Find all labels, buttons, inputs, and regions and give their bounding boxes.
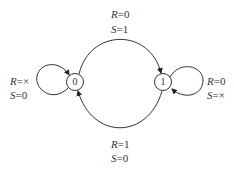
- s-value: =0: [16, 89, 28, 101]
- r-variable: R: [111, 8, 118, 20]
- self-loop-1-arrow: [170, 67, 203, 96]
- state-0-label: 0: [67, 76, 83, 88]
- transition-1-to-0-r-label: R=1: [111, 138, 129, 150]
- self-loop-0-arrow: [37, 65, 69, 95]
- self-loop-0-r-label: R=×: [10, 75, 29, 87]
- s-value: =0: [117, 152, 129, 164]
- r-variable: R: [111, 138, 118, 150]
- transition-1-to-0-s-label: S=0: [111, 152, 128, 164]
- transition-0-to-1-r-label: R=0: [111, 8, 129, 20]
- r-value: =0: [214, 75, 226, 87]
- self-loop-1-r-label: R=0: [207, 75, 225, 87]
- transition-0-to-1-s-label: S=1: [111, 23, 128, 35]
- state-diagram: 0 1 R=0 S=1 R=1 S=0 R=× S=0 R=0 S=×: [0, 0, 234, 170]
- r-value: =×: [17, 75, 29, 87]
- transition-1-to-0-arrow: [78, 91, 162, 128]
- r-value: =1: [118, 138, 130, 150]
- r-variable: R: [207, 75, 214, 87]
- s-value: =1: [117, 23, 129, 35]
- s-value: =×: [213, 89, 225, 101]
- state-1-label: 1: [155, 76, 171, 88]
- r-variable: R: [10, 75, 17, 87]
- self-loop-1-s-label: S=×: [207, 89, 225, 101]
- r-value: =0: [118, 8, 130, 20]
- transition-0-to-1-arrow: [79, 39, 161, 74]
- self-loop-0-s-label: S=0: [10, 89, 27, 101]
